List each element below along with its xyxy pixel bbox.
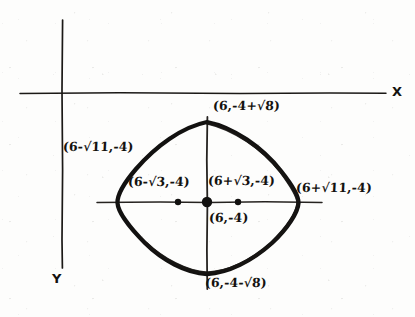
label-top-vertex: (6,-4+√8) bbox=[213, 100, 281, 113]
y-axis-label: Y bbox=[52, 272, 61, 285]
sketch-page: X Y (6,-4+√8) (6-√11,-4) (6-√3,-4) (6+√3… bbox=[0, 0, 415, 317]
point-focus-right bbox=[235, 199, 241, 205]
conic-curve-overstroke bbox=[146, 123, 298, 273]
x-axis-label: X bbox=[392, 85, 402, 98]
label-center: (6,-4) bbox=[209, 212, 249, 225]
label-focus-right: (6+√3,-4) bbox=[208, 175, 276, 188]
point-center bbox=[202, 197, 212, 207]
label-bottom-vertex: (6,-4-√8) bbox=[205, 277, 267, 290]
x-axis-line bbox=[20, 93, 386, 94]
label-right-vertex: (6+√11,-4) bbox=[296, 182, 373, 195]
label-focus-left: (6-√3,-4) bbox=[128, 176, 190, 189]
label-left-vertex: (6-√11,-4) bbox=[63, 141, 134, 154]
point-focus-left bbox=[175, 199, 181, 205]
coordinate-sketch-drawing bbox=[0, 0, 415, 317]
